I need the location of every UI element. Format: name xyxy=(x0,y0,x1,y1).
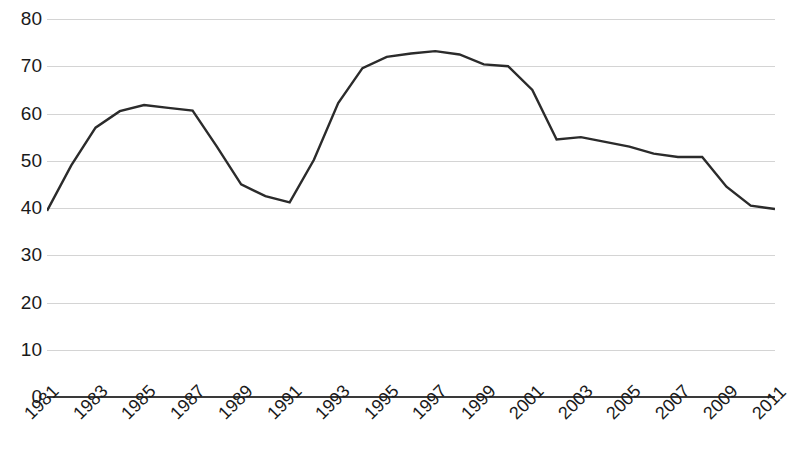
y-tick-label: 40 xyxy=(4,198,42,217)
y-tick-label: 0 xyxy=(4,387,42,406)
plot-area xyxy=(47,0,775,455)
y-tick-label: 70 xyxy=(4,56,42,75)
y-tick-label: 50 xyxy=(4,151,42,170)
y-tick-label: 30 xyxy=(4,245,42,264)
data-series xyxy=(47,0,775,455)
y-tick-label: 20 xyxy=(4,293,42,312)
y-axis: 01020304050607080 xyxy=(0,0,42,455)
y-tick-label: 60 xyxy=(4,104,42,123)
y-tick-label: 80 xyxy=(4,9,42,28)
y-tick-label: 10 xyxy=(4,340,42,359)
series-line-path xyxy=(47,51,775,211)
